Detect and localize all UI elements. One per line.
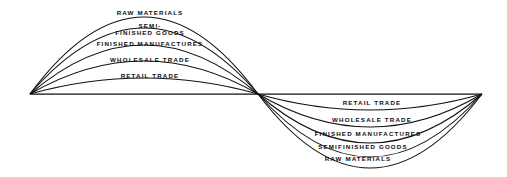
band-label-lower-right-lobe-4: RAW MATERIALS (325, 155, 392, 162)
band-label-lower-right-lobe-2: FINISHED MANUFACTURES (315, 130, 422, 137)
band-label-upper-left-lobe-3: WHOLESALE TRADE (110, 56, 190, 63)
diagram-canvas (0, 0, 507, 177)
arc-upper-left-lobe-4 (30, 78, 258, 94)
band-label-upper-left-lobe-2: FINISHED MANUFACTURES (97, 40, 204, 47)
band-label-lower-right-lobe-1: WHOLESALE TRADE (332, 116, 412, 123)
band-label-upper-left-lobe-4: RETAIL TRADE (121, 72, 180, 79)
band-label-upper-left-lobe-0: RAW MATERIALS (117, 9, 184, 16)
lens-diagram: RAW MATERIALSSEMI-FINISHED GOODSFINISHED… (0, 0, 507, 177)
arc-upper-left-lobe-2 (30, 45, 258, 94)
band-label-lower-right-lobe-3: SEMIFINISHED GOODS (318, 143, 407, 150)
band-label-lower-right-lobe-0: RETAIL TRADE (343, 99, 402, 106)
band-label-upper-left-lobe-1: SEMI-FINISHED GOODS (115, 22, 185, 36)
